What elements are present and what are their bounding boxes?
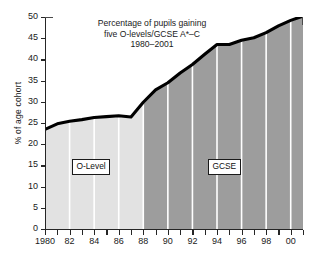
y-tick-label: 15 bbox=[14, 159, 38, 169]
y-tick bbox=[41, 17, 46, 18]
y-tick-label: 35 bbox=[14, 75, 38, 85]
y-tick-label: 0 bbox=[14, 223, 38, 233]
x-tick bbox=[143, 230, 144, 235]
x-tick bbox=[291, 230, 292, 235]
annotation-gcse: GCSE bbox=[208, 159, 241, 175]
y-tick bbox=[41, 187, 46, 188]
x-tick bbox=[217, 230, 218, 235]
x-tick bbox=[254, 230, 255, 235]
chart-title-line-1: Percentage of pupils gaining bbox=[62, 18, 242, 29]
y-tick-label: 25 bbox=[14, 117, 38, 127]
annotation-o-level: O-Level bbox=[72, 159, 110, 175]
x-tick bbox=[106, 230, 107, 235]
y-tick bbox=[41, 165, 46, 166]
x-tick-label: 00 bbox=[276, 236, 306, 246]
y-tick-label: 10 bbox=[14, 181, 38, 191]
x-tick bbox=[94, 230, 95, 235]
y-tick-label: 20 bbox=[14, 138, 38, 148]
x-tick bbox=[82, 230, 83, 235]
y-tick-label: 30 bbox=[14, 96, 38, 106]
x-tick bbox=[242, 230, 243, 235]
x-tick bbox=[70, 230, 71, 235]
x-tick bbox=[266, 230, 267, 235]
chart-title-line-3: 1980–2001 bbox=[62, 39, 242, 50]
x-tick bbox=[168, 230, 169, 235]
chart-title-line-2: five O-levels/GCSE A*–C bbox=[62, 29, 242, 40]
axis-top-corner-tick bbox=[45, 17, 53, 18]
y-tick-label: 5 bbox=[14, 202, 38, 212]
y-tick bbox=[41, 144, 46, 145]
x-tick bbox=[192, 230, 193, 235]
y-tick bbox=[41, 38, 46, 39]
x-tick bbox=[229, 230, 230, 235]
x-tick bbox=[57, 230, 58, 235]
x-axis-line bbox=[45, 229, 303, 230]
y-tick bbox=[41, 81, 46, 82]
chart-figure: % of age cohort 05101520253035404550 198… bbox=[0, 0, 316, 260]
y-tick-label: 40 bbox=[14, 53, 38, 63]
x-tick bbox=[45, 230, 46, 235]
x-tick bbox=[278, 230, 279, 235]
y-tick bbox=[41, 102, 46, 103]
chart-title: Percentage of pupils gainingfive O-level… bbox=[62, 18, 242, 50]
x-tick bbox=[180, 230, 181, 235]
y-tick-label: 45 bbox=[14, 32, 38, 42]
y-axis-line bbox=[45, 17, 46, 229]
x-tick bbox=[205, 230, 206, 235]
axis-right-corner-tick bbox=[302, 17, 303, 25]
y-tick bbox=[41, 123, 46, 124]
x-tick bbox=[119, 230, 120, 235]
y-tick bbox=[41, 59, 46, 60]
y-tick-label: 50 bbox=[14, 11, 38, 21]
x-tick bbox=[156, 230, 157, 235]
x-tick bbox=[131, 230, 132, 235]
x-tick bbox=[303, 230, 304, 235]
y-tick bbox=[41, 208, 46, 209]
